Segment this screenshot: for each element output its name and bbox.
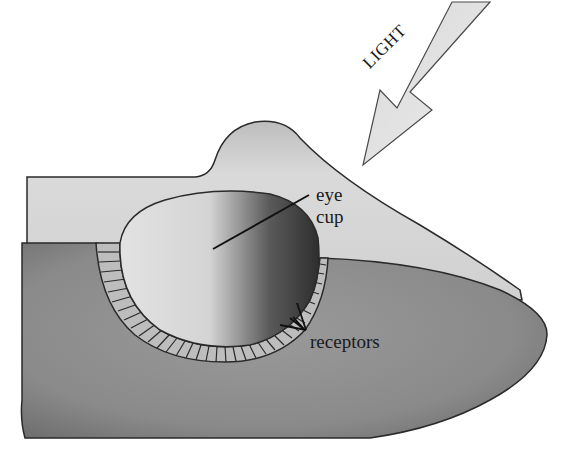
eye-cup-diagram [0,0,573,462]
receptors-label: receptors [310,331,380,352]
light-arrow [363,2,490,165]
eye-cup-label-line2: cup [316,206,343,227]
eye-cup-label-line1: eye [316,184,342,205]
